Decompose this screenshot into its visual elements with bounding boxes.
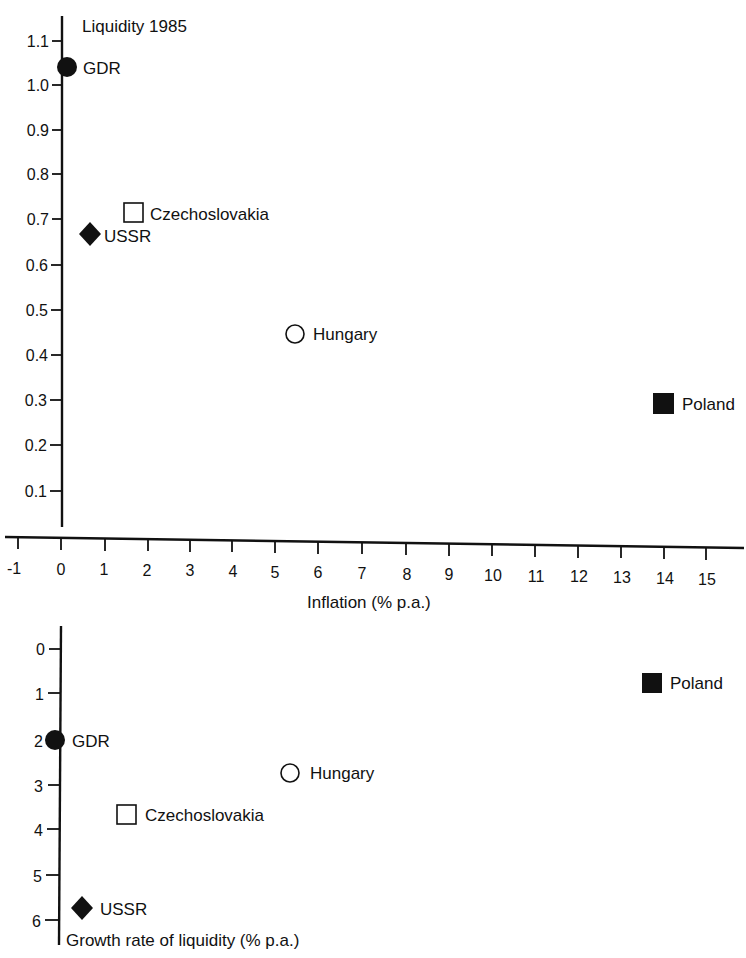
top-chart-title: Liquidity 1985 bbox=[82, 17, 187, 36]
filled-square-marker-icon bbox=[653, 393, 674, 414]
point-label: Poland bbox=[682, 395, 735, 414]
point-label: GDR bbox=[83, 59, 121, 78]
open-circle-marker-icon bbox=[286, 325, 304, 343]
point-label: Poland bbox=[670, 674, 723, 693]
point-label: USSR bbox=[104, 227, 151, 246]
x-tick-label: 14 bbox=[656, 570, 674, 587]
bottom-point-czechoslovakia: Czechoslovakia bbox=[117, 805, 265, 825]
y-tick-label: 1.0 bbox=[27, 77, 49, 94]
y-tick-label: 0.7 bbox=[27, 211, 49, 228]
x-tick-label: 5 bbox=[271, 564, 280, 581]
y-tick-label: 0.6 bbox=[26, 257, 48, 274]
top-chart: 1.1 1.0 0.9 0.8 0.7 0.6 0.5 0.4 0.3 0.2 … bbox=[5, 16, 744, 612]
top-y-tick-labels: 1.1 1.0 0.9 0.8 0.7 0.6 0.5 0.4 0.3 0.2 … bbox=[25, 33, 49, 500]
bottom-chart: 0 1 2 3 4 5 6 Growth rate of liquidity (… bbox=[32, 626, 723, 950]
x-tick-label: 1 bbox=[100, 561, 109, 578]
point-label: Hungary bbox=[313, 325, 378, 344]
y-tick-label: 0.3 bbox=[25, 392, 47, 409]
top-point-czechoslovakia: Czechoslovakia bbox=[124, 203, 270, 224]
open-square-marker-icon bbox=[124, 203, 143, 222]
y-tick-label: 0 bbox=[36, 641, 45, 658]
top-y-ticks bbox=[50, 41, 62, 491]
bottom-y-tick-labels: 0 1 2 3 4 5 6 bbox=[32, 641, 45, 930]
top-point-gdr: GDR bbox=[57, 57, 121, 78]
bottom-point-ussr: USSR bbox=[71, 896, 147, 920]
top-x-tick-labels: -1 0 1 2 3 4 5 6 7 8 9 10 11 12 13 14 15 bbox=[7, 560, 716, 588]
point-label: Czechoslovakia bbox=[145, 806, 265, 825]
x-tick-label: 15 bbox=[698, 571, 716, 588]
bottom-point-gdr: GDR bbox=[45, 730, 110, 751]
y-tick-label: 6 bbox=[32, 913, 41, 930]
top-x-ticks bbox=[18, 537, 706, 560]
filled-square-marker-icon bbox=[642, 673, 662, 693]
filled-diamond-marker-icon bbox=[71, 896, 93, 920]
x-tick-label: 10 bbox=[484, 567, 502, 584]
y-tick-label: 5 bbox=[33, 868, 42, 885]
y-tick-label: 0.1 bbox=[25, 483, 47, 500]
bottom-point-poland: Poland bbox=[642, 673, 723, 693]
point-label: Czechoslovakia bbox=[150, 205, 270, 224]
y-tick-label: 0.9 bbox=[27, 122, 49, 139]
x-tick-label: 12 bbox=[570, 568, 588, 585]
x-tick-label: 2 bbox=[143, 562, 152, 579]
x-tick-label: 4 bbox=[229, 563, 238, 580]
top-point-hungary: Hungary bbox=[286, 325, 378, 344]
y-tick-label: 2 bbox=[34, 733, 43, 750]
x-axis-title: Inflation (% p.a.) bbox=[307, 593, 431, 612]
point-label: USSR bbox=[100, 900, 147, 919]
x-tick-label: 8 bbox=[403, 566, 412, 583]
y-tick-label: 3 bbox=[34, 778, 43, 795]
x-tick-label: 7 bbox=[358, 565, 367, 582]
x-tick-label: -1 bbox=[7, 560, 21, 577]
filled-circle-marker-icon bbox=[57, 57, 77, 77]
x-tick-label: 6 bbox=[314, 564, 323, 581]
filled-circle-marker-icon bbox=[45, 730, 65, 750]
filled-diamond-marker-icon bbox=[79, 222, 101, 246]
y-tick-label: 0.4 bbox=[26, 347, 48, 364]
y-tick-label: 1.1 bbox=[27, 33, 49, 50]
y-tick-label: 0.2 bbox=[25, 437, 47, 454]
x-tick-label: 13 bbox=[613, 569, 631, 586]
x-tick-label: 9 bbox=[445, 566, 454, 583]
open-square-marker-icon bbox=[117, 805, 136, 824]
x-tick-label: 3 bbox=[186, 562, 195, 579]
open-circle-marker-icon bbox=[281, 764, 299, 782]
top-point-ussr: USSR bbox=[79, 222, 151, 246]
y-tick-label: 0.8 bbox=[27, 166, 49, 183]
y-tick-label: 4 bbox=[34, 822, 43, 839]
x-tick-label: 11 bbox=[528, 568, 545, 585]
bottom-point-hungary: Hungary bbox=[281, 764, 375, 783]
y-axis-title: Growth rate of liquidity (% p.a.) bbox=[66, 931, 299, 950]
top-x-axis bbox=[5, 537, 744, 548]
figure: 1.1 1.0 0.9 0.8 0.7 0.6 0.5 0.4 0.3 0.2 … bbox=[0, 0, 746, 958]
top-point-poland: Poland bbox=[653, 393, 735, 414]
y-tick-label: 0.5 bbox=[26, 302, 48, 319]
point-label: Hungary bbox=[310, 764, 375, 783]
point-label: GDR bbox=[72, 732, 110, 751]
x-tick-label: 0 bbox=[57, 561, 66, 578]
y-tick-label: 1 bbox=[35, 686, 44, 703]
